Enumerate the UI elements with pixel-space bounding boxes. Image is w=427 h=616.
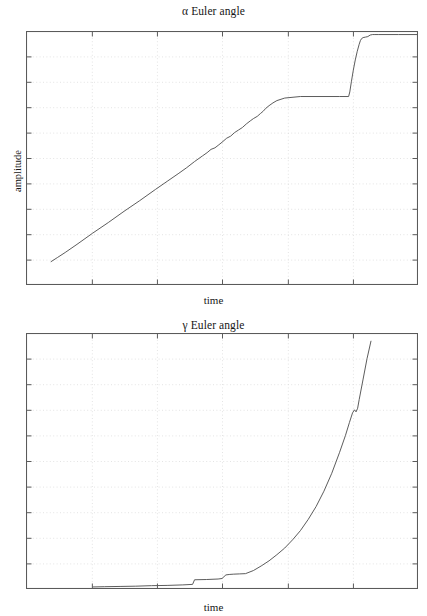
chart-title-gamma: γ Euler angle	[0, 318, 427, 332]
y-axis-label-alpha: amplitude	[12, 150, 24, 192]
chart-panel-alpha: α Euler angle amplitude time	[0, 0, 427, 312]
plot-svg-gamma	[26, 333, 418, 589]
x-axis-label-gamma: time	[0, 601, 427, 614]
euler-angle-figure: α Euler angle amplitude time γ Euler ang…	[0, 0, 427, 616]
plot-area-alpha	[26, 31, 418, 285]
plot-svg-alpha	[26, 31, 418, 285]
x-axis-label-alpha: time	[0, 294, 427, 307]
chart-panel-gamma: γ Euler angle amplitude time	[0, 310, 427, 616]
chart-title-alpha: α Euler angle	[0, 4, 427, 18]
plot-area-gamma	[26, 333, 418, 589]
